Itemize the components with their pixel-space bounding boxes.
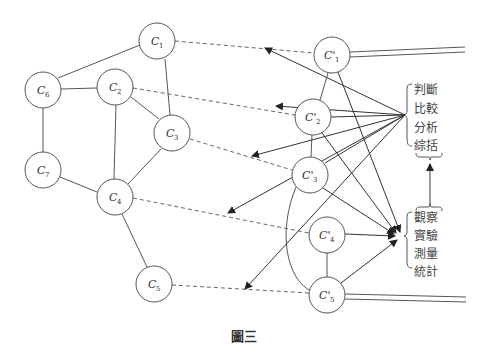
double-lines [345, 47, 466, 302]
svg-text:1: 1 [335, 56, 339, 64]
svg-text:C': C' [302, 169, 313, 182]
observation-box: 觀察 實驗 測量 統計 [404, 204, 442, 279]
svg-text:4: 4 [117, 198, 122, 206]
judgment-box: 判斷 比較 分析 綜括 [404, 83, 442, 160]
svg-text:6: 6 [45, 91, 50, 99]
svg-text:7: 7 [45, 171, 49, 179]
node-c1: C1 [139, 23, 175, 59]
node-c4: C4 [97, 179, 133, 215]
right-graph-nodes: C'1 C'2 C'3 C'4 C'5 [292, 37, 350, 313]
node-c-prime-2: C'2 [295, 99, 331, 135]
svg-text:C': C' [319, 229, 330, 242]
svg-text:1: 1 [159, 42, 163, 50]
svg-text:5: 5 [156, 285, 160, 293]
svg-text:分析: 分析 [414, 121, 438, 135]
svg-text:4: 4 [330, 236, 335, 244]
svg-text:比較: 比較 [414, 101, 438, 116]
svg-text:C': C' [324, 49, 335, 62]
svg-text:2: 2 [316, 118, 320, 126]
svg-text:綜括: 綜括 [414, 138, 438, 153]
node-c2: C2 [97, 69, 133, 105]
node-c6: C6 [25, 72, 61, 108]
concept-mapping-diagram: C1 C2 C3 C4 C5 C6 C7 C'1 C'2 C'3 C'4 C'5… [0, 0, 488, 363]
node-c3: C3 [154, 115, 190, 151]
node-c-prime-5: C'5 [309, 277, 345, 313]
node-c7: C7 [25, 152, 61, 188]
svg-text:判斷: 判斷 [414, 83, 438, 97]
svg-text:3: 3 [174, 134, 178, 142]
svg-text:C': C' [319, 289, 330, 302]
svg-text:2: 2 [117, 88, 121, 96]
node-c-prime-3: C'3 [292, 157, 328, 193]
node-c-prime-4: C'4 [309, 217, 345, 253]
svg-text:3: 3 [313, 176, 317, 184]
correspondence-lines [133, 41, 314, 293]
svg-text:測量: 測量 [414, 247, 438, 261]
svg-text:實驗: 實驗 [414, 228, 438, 243]
node-c5: C5 [136, 266, 172, 302]
svg-text:C': C' [305, 111, 316, 124]
figure-caption: 圖三 [231, 329, 257, 344]
svg-text:統計: 統計 [414, 264, 438, 279]
svg-text:觀察: 觀察 [414, 211, 438, 225]
svg-text:5: 5 [330, 296, 334, 304]
node-c-prime-1: C'1 [314, 37, 350, 73]
